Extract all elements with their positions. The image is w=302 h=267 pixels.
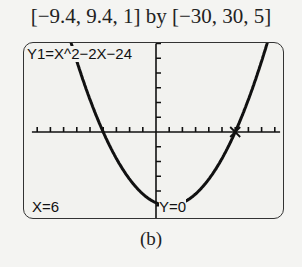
- window-settings-label: [−9.4, 9.4, 1] by [−30, 30, 5]: [0, 4, 302, 29]
- calculator-graph-screen: Y1=X^2−2X−24 X=6 Y=0: [23, 42, 284, 219]
- figure-caption: (b): [0, 228, 302, 250]
- axes: [32, 44, 280, 219]
- equation-label: Y1=X^2−2X−24: [27, 46, 134, 62]
- trace-x-value: X=6: [32, 199, 59, 215]
- trace-y-value: Y=0: [159, 199, 186, 215]
- graph-plot: [24, 43, 283, 218]
